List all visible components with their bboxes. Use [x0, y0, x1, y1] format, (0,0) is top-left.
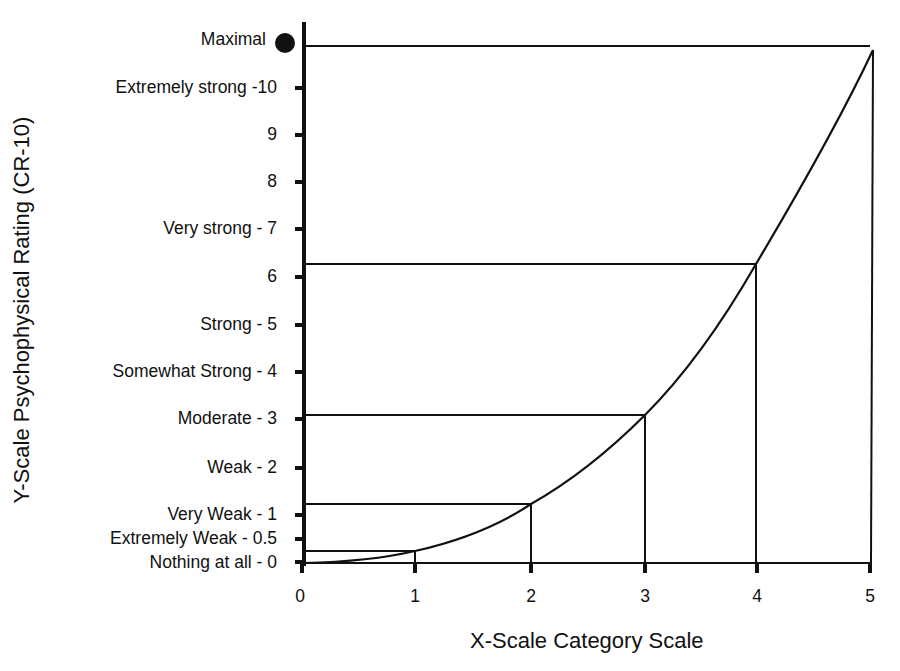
x-label-5: 5: [855, 586, 885, 606]
y-label-2: Weak - 2: [207, 457, 277, 477]
y-label-9: 9: [267, 124, 277, 144]
x-label-3: 3: [630, 586, 660, 606]
maximal-marker-icon: [275, 33, 295, 53]
y-label-5: Strong - 5: [200, 314, 277, 334]
x-axis-title: X-Scale Category Scale: [470, 628, 704, 654]
y-label-6: 6: [267, 266, 277, 286]
x-label-2: 2: [516, 586, 546, 606]
y-label-0-5: Extremely Weak - 0.5: [110, 528, 277, 548]
chart-canvas: [0, 0, 900, 671]
drop-lines: [304, 46, 873, 563]
y-label-7: Very strong - 7: [163, 218, 277, 238]
y-label-3: Moderate - 3: [178, 408, 277, 428]
y-label-8: 8: [267, 171, 277, 191]
x-label-1: 1: [400, 586, 430, 606]
cr10-curve: [304, 50, 873, 563]
x-label-4: 4: [742, 586, 772, 606]
y-label-1: Very Weak - 1: [167, 504, 277, 524]
x-ticks: [302, 563, 870, 573]
y-axis-title: Y-Scale Psychophysical Rating (CR-10): [9, 117, 35, 504]
y-label-0: Nothing at all - 0: [150, 552, 277, 572]
y-label-maximal: Maximal: [201, 29, 266, 49]
x-label-0: 0: [285, 586, 315, 606]
y-label-10: Extremely strong -10: [116, 77, 277, 97]
y-label-4: Somewhat Strong - 4: [113, 361, 277, 381]
